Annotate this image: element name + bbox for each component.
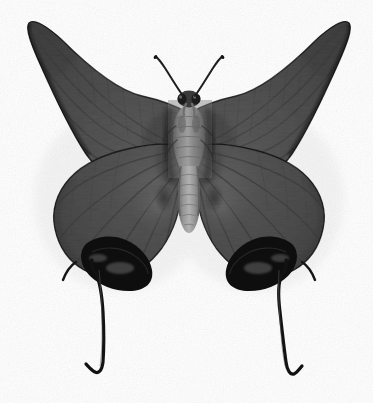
photo-grain-overlay: [0, 0, 373, 403]
specimen-photo-canvas: butterfly dorsal, wings spread, pinned s…: [0, 0, 373, 403]
butterfly-specimen-image: [0, 0, 373, 403]
